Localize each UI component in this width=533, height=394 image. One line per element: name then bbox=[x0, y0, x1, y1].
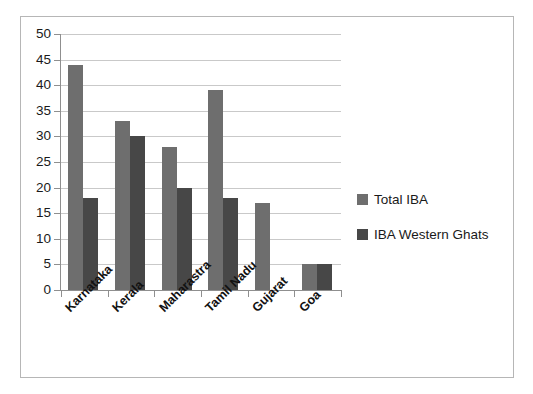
y-axis-tick-label: 20 bbox=[23, 181, 51, 195]
gridline bbox=[61, 239, 341, 240]
y-axis-tick bbox=[54, 264, 61, 265]
chart-frame: 05101520253035404550 KarnatakaKeralaMaha… bbox=[20, 16, 514, 378]
y-axis-tick-label: 50 bbox=[23, 27, 51, 41]
x-axis-tick bbox=[154, 291, 155, 297]
y-axis-tick-label: 35 bbox=[23, 104, 51, 118]
bar bbox=[317, 264, 332, 290]
y-axis-labels: 05101520253035404550 bbox=[21, 17, 51, 317]
y-axis-tick bbox=[54, 213, 61, 214]
bar bbox=[208, 90, 223, 290]
y-axis-tick-label: 40 bbox=[23, 78, 51, 92]
x-axis-tick bbox=[294, 291, 295, 297]
y-axis-tick bbox=[54, 136, 61, 137]
y-axis-tick-label: 0 bbox=[23, 283, 51, 297]
gridline bbox=[61, 60, 341, 61]
y-axis-tick bbox=[54, 188, 61, 189]
gridline bbox=[61, 111, 341, 112]
y-axis-tick-label: 45 bbox=[23, 53, 51, 67]
gridline bbox=[61, 136, 341, 137]
legend-label: IBA Western Ghats bbox=[374, 227, 489, 242]
y-axis-tick bbox=[54, 111, 61, 112]
y-axis-tick-label: 30 bbox=[23, 129, 51, 143]
y-axis-tick-label: 15 bbox=[23, 206, 51, 220]
gridline bbox=[61, 188, 341, 189]
x-axis-category-label: Goa bbox=[297, 288, 323, 314]
gridline bbox=[61, 162, 341, 163]
bar bbox=[115, 121, 130, 290]
legend-item-iba-western-ghats: IBA Western Ghats bbox=[357, 227, 507, 242]
x-axis-tick bbox=[61, 291, 62, 297]
y-axis-tick bbox=[54, 239, 61, 240]
y-axis-tick bbox=[54, 162, 61, 163]
gridline bbox=[61, 213, 341, 214]
y-axis-tick bbox=[54, 34, 61, 35]
y-axis-tick bbox=[54, 60, 61, 61]
x-axis-tick bbox=[248, 291, 249, 297]
x-axis-tick bbox=[341, 291, 342, 297]
bar bbox=[68, 65, 83, 290]
gridline bbox=[61, 34, 341, 35]
legend-swatch-icon bbox=[357, 229, 368, 240]
y-axis-tick bbox=[54, 85, 61, 86]
y-axis-tick-label: 25 bbox=[23, 155, 51, 169]
legend-swatch-icon bbox=[357, 194, 368, 205]
x-axis-tick bbox=[201, 291, 202, 297]
bar bbox=[130, 136, 145, 290]
chart-legend: Total IBA IBA Western Ghats bbox=[357, 192, 507, 262]
gridline bbox=[61, 85, 341, 86]
y-axis-tick bbox=[54, 290, 61, 291]
y-axis-tick-label: 5 bbox=[23, 257, 51, 271]
bar bbox=[255, 203, 270, 290]
legend-label: Total IBA bbox=[374, 192, 428, 207]
y-axis-tick-label: 10 bbox=[23, 232, 51, 246]
bar bbox=[162, 147, 177, 290]
legend-item-total-iba: Total IBA bbox=[357, 192, 507, 207]
bar bbox=[302, 264, 317, 290]
x-axis-tick bbox=[108, 291, 109, 297]
plot-area bbox=[61, 34, 341, 290]
